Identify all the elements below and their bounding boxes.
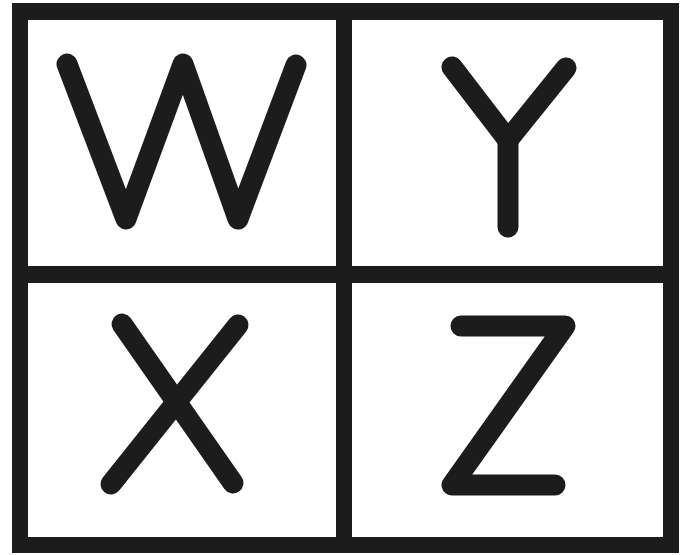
letter-grid [0,0,693,555]
letter-x-glyph [111,324,238,484]
letter-y-glyph [452,67,566,227]
letter-w-glyph [67,64,296,219]
letter-z-glyph [452,326,565,485]
horizontal-divider [12,266,679,283]
